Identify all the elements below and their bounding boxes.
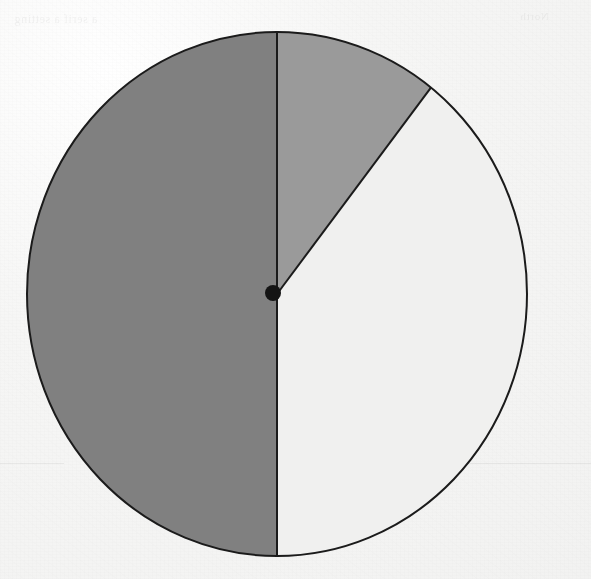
pie-chart — [0, 0, 591, 579]
scanned-page: a serif a setting North which area — [0, 0, 591, 579]
pie-center-dot — [265, 285, 281, 301]
pie-slice-3[interactable] — [27, 32, 277, 556]
